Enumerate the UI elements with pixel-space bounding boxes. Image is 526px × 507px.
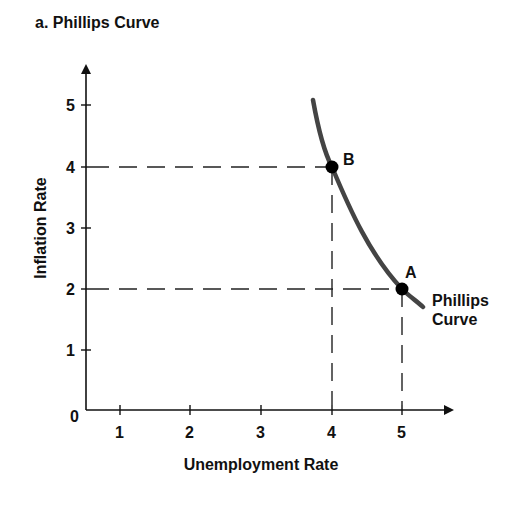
point-b-label: B (343, 151, 355, 168)
curve-label-line2: Curve (432, 311, 477, 328)
reference-lines (91, 167, 402, 405)
x-axis-label: Unemployment Rate (184, 456, 339, 473)
point-a-label: A (405, 264, 417, 281)
origin-label: 0 (70, 408, 79, 425)
point-b-marker (326, 161, 339, 174)
x-tick-label: 5 (397, 424, 406, 441)
y-tick-label: 2 (66, 281, 75, 298)
x-tick-label: 1 (115, 424, 124, 441)
x-tick-label: 4 (327, 424, 336, 441)
y-axis-label: Inflation Rate (32, 177, 49, 278)
y-tick-label: 1 (66, 342, 75, 359)
point-a-marker (396, 283, 409, 296)
y-tick-label: 3 (66, 220, 75, 237)
y-tick-label: 5 (66, 97, 75, 114)
x-tick-label: 2 (185, 424, 194, 441)
phillips-curve-chart: 5 4 3 2 1 0 1 2 3 4 5 Unemployment Rate … (0, 0, 526, 507)
y-tick-label: 4 (66, 159, 75, 176)
x-tick-label: 3 (256, 424, 265, 441)
curve-label-line1: Phillips (432, 292, 489, 309)
